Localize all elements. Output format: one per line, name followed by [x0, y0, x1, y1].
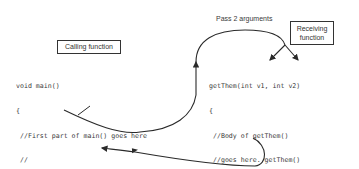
receiving-function-code: getThem(int v1, int v2) { //Body of getT…	[209, 66, 328, 169]
receiving-function-label-1: Receiving	[291, 24, 333, 33]
arrow-to-v2	[285, 45, 298, 60]
code-line: {	[209, 107, 328, 115]
calling-function-label: Calling function	[65, 43, 113, 50]
receiving-function-label-2: function	[291, 33, 333, 42]
calling-function-code: void main() { //First part of main() goe…	[16, 66, 151, 169]
code-line: //	[16, 156, 151, 164]
code-line: //First part of main() goes here	[16, 132, 151, 140]
code-line: getThem(int v1, int v2)	[209, 82, 328, 90]
calling-function-box: Calling function	[57, 40, 121, 54]
receiving-function-box: Receiving function	[290, 21, 334, 45]
code-line: void main()	[16, 82, 151, 90]
code-line: {	[16, 107, 151, 115]
pass-arguments-label: Pass 2 arguments	[216, 15, 272, 22]
code-line: //goes here. getThem()	[209, 156, 328, 164]
code-line: //Body of getThem()	[209, 132, 328, 140]
pass-arc	[196, 30, 285, 62]
arrow-to-v1	[270, 45, 285, 60]
